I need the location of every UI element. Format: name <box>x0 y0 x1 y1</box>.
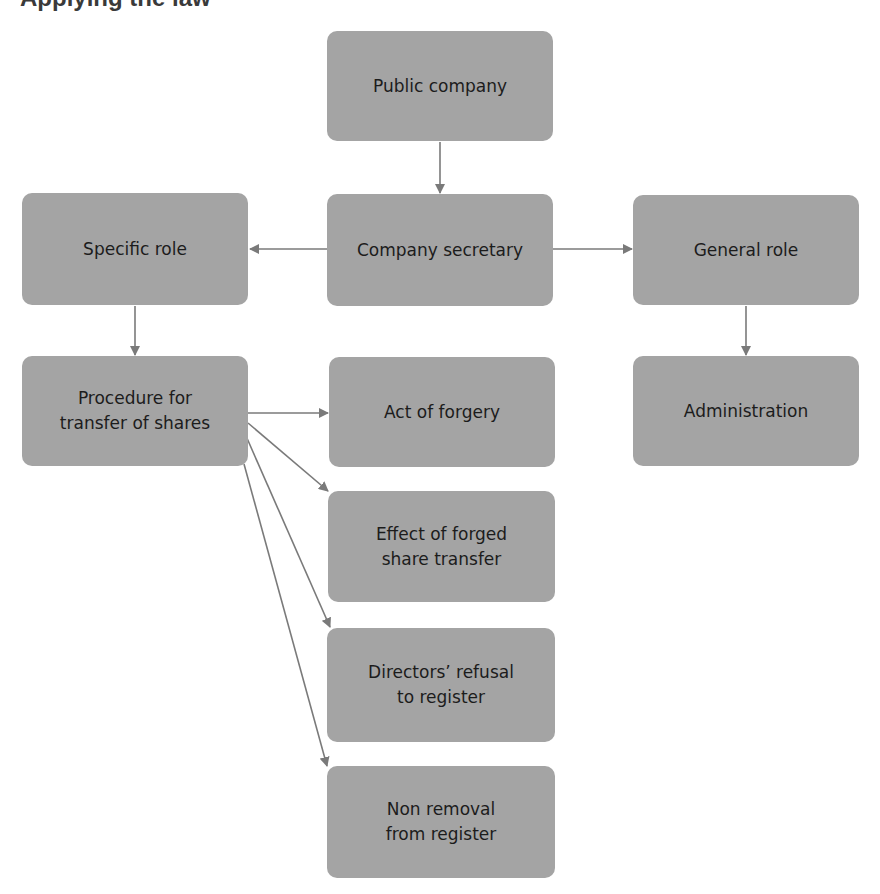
node-label: Effect of forged share transfer <box>376 522 507 572</box>
node-directors-refusal: Directors’ refusal to register <box>327 628 555 742</box>
node-public-company: Public company <box>327 31 553 141</box>
node-label: Public company <box>373 74 507 99</box>
node-administration: Administration <box>633 356 859 466</box>
node-specific-role: Specific role <box>22 193 248 305</box>
node-label: Directors’ refusal to register <box>368 660 514 710</box>
node-label: Administration <box>684 399 808 424</box>
edge-procedure-to-effect <box>248 423 328 491</box>
node-general-role: General role <box>633 195 859 305</box>
node-company-secretary: Company secretary <box>327 194 553 306</box>
node-act-of-forgery: Act of forgery <box>329 357 555 467</box>
node-label: Company secretary <box>357 238 523 263</box>
edge-procedure-to-nonremoval <box>244 464 327 766</box>
node-label: Act of forgery <box>384 400 500 425</box>
node-effect-forged-transfer: Effect of forged share transfer <box>328 491 555 602</box>
edge-procedure-to-directors <box>246 436 330 627</box>
node-label: Specific role <box>83 237 187 262</box>
node-label: General role <box>694 238 799 263</box>
node-non-removal: Non removal from register <box>327 766 555 878</box>
node-procedure-transfer-shares: Procedure for transfer of shares <box>22 356 248 466</box>
node-label: Non removal from register <box>386 797 497 847</box>
node-label: Procedure for transfer of shares <box>60 386 210 436</box>
